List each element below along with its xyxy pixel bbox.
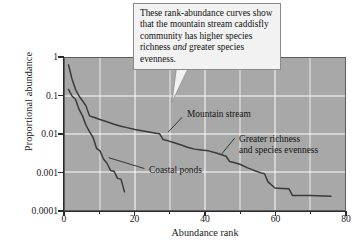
y-tick-label: 0.1: [46, 91, 58, 101]
callout-box: These rank-abundance curves show that th…: [133, 3, 281, 70]
leader-line-coastal-ponds: [109, 158, 145, 169]
x-axis-title: Abundance rank: [64, 227, 346, 238]
annotation-mountain-stream: Mountain stream: [187, 109, 251, 120]
leader-line-greater-richness: [222, 138, 235, 154]
y-tick-label: 0.001: [36, 168, 58, 178]
leader-line-mountain-stream: [168, 117, 182, 132]
y-tick-mark: [58, 95, 64, 96]
y-tick-mark: [58, 133, 64, 134]
x-tick-mark-minor: [310, 211, 311, 214]
plot-area: Mountain stream Greater richness and spe…: [64, 57, 346, 211]
x-tick-mark-minor: [240, 211, 241, 214]
annotation-coastal-ponds: Coastal ponds: [149, 165, 202, 176]
x-tick-mark-minor: [99, 211, 100, 214]
annotation-greater-richness: Greater richness and species evenness: [239, 134, 318, 156]
y-tick-mark: [58, 172, 64, 173]
annotation-greater-richness-line1: Greater richness: [239, 134, 318, 145]
x-tick-label: 0: [49, 214, 79, 224]
rank-abundance-figure: Mountain stream Greater richness and spe…: [0, 0, 359, 245]
y-tick-label: 0.01: [41, 129, 58, 139]
x-tick-label: 20: [120, 214, 150, 224]
callout-line-3: community has higher species: [140, 31, 275, 42]
y-axis-title: Proportional abundance: [23, 27, 34, 177]
y-tick-mark: [58, 56, 64, 57]
x-tick-label: 40: [190, 214, 220, 224]
x-tick-label: 80: [331, 214, 359, 224]
callout-line-4-prefix: richness: [140, 42, 173, 52]
x-tick-label: 60: [261, 214, 291, 224]
callout-line-4: richness and greater species evenness.: [140, 42, 275, 65]
annotation-greater-richness-line2: and species evenness: [239, 145, 318, 156]
callout-line-4-emphasis: and: [173, 42, 187, 52]
callout-line-2: that the mountain stream caddisfly: [140, 19, 275, 30]
y-tick-label: 1: [53, 52, 58, 62]
x-tick-mark-minor: [169, 211, 170, 214]
callout-line-1: These rank-abundance curves show: [140, 8, 275, 19]
